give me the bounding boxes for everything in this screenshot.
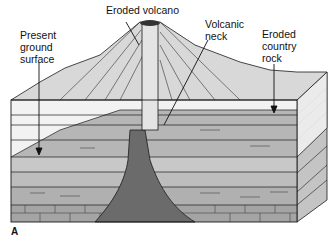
label-eroded-volcano: Eroded volcano: [106, 4, 179, 16]
label-present-ground-surface: Present ground surface: [20, 29, 56, 65]
label-volcanic-neck: Volcanic neck: [205, 18, 244, 42]
figure-label: A: [11, 226, 18, 237]
label-eroded-country-rock: Eroded country rock: [262, 28, 296, 64]
volcanic-conduit: [142, 24, 158, 130]
